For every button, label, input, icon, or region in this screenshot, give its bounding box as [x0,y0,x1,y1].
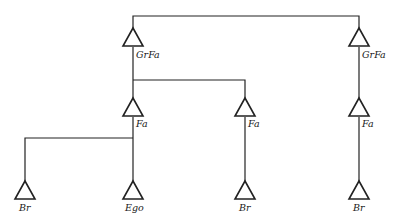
label-grfa-right: GrFa [362,49,386,60]
male-triangle-icon [349,28,369,46]
male-triangle-icon [123,98,143,116]
label-br-1: Br [18,202,32,213]
connector-lines [25,16,359,181]
label-fa-1: Fa [135,118,148,129]
male-triangle-icon [235,98,255,116]
ego-sibling-line [25,138,133,181]
kinship-diagram: GrFa GrFa Fa Fa Fa Br Ego Br Br [0,0,397,222]
male-triangle-icon [123,28,143,46]
label-grfa-left: GrFa [136,49,160,60]
node-symbols [15,28,369,199]
label-br-3: Br [352,202,366,213]
grandfather-sibling-line [133,16,359,28]
male-triangle-icon [123,181,143,199]
label-fa-3: Fa [361,118,374,129]
label-fa-2: Fa [247,118,260,129]
male-triangle-icon [349,181,369,199]
label-br-2: Br [238,202,252,213]
node-labels: GrFa GrFa Fa Fa Fa Br Ego Br Br [18,49,386,213]
male-triangle-icon [15,181,35,199]
male-triangle-icon [349,98,369,116]
male-triangle-icon [235,181,255,199]
fathers-sibling-line [133,80,245,98]
label-ego: Ego [124,202,144,213]
